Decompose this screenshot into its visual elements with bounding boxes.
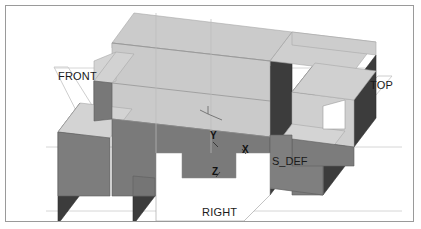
axis-label-z[interactable]: Z bbox=[212, 167, 218, 177]
face-front-left-lower bbox=[58, 132, 110, 196]
face-front-notch bbox=[133, 176, 155, 196]
cad-viewport-screenshot: FRONT TOP RIGHT X Y Z S_DEF bbox=[0, 0, 421, 229]
datum-label-s-def[interactable]: S_DEF bbox=[272, 156, 307, 167]
view-label-top[interactable]: TOP bbox=[370, 80, 393, 91]
isometric-model-scene[interactable] bbox=[6, 6, 413, 221]
view-label-front[interactable]: FRONT bbox=[58, 71, 97, 82]
model-viewport[interactable]: FRONT TOP RIGHT X Y Z S_DEF bbox=[6, 6, 413, 221]
face-front-left-step bbox=[94, 81, 112, 121]
axis-label-y[interactable]: Y bbox=[210, 131, 217, 141]
view-label-right[interactable]: RIGHT bbox=[202, 207, 237, 218]
axis-label-x[interactable]: X bbox=[242, 145, 249, 155]
